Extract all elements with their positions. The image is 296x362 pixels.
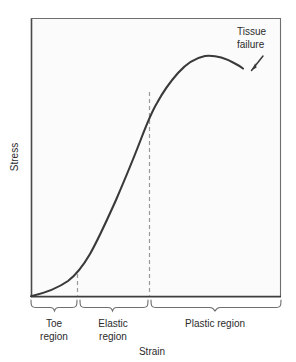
- brace-toe: [31, 300, 77, 311]
- region-label-toe-line1: Toe: [46, 318, 63, 329]
- region-braces: [31, 300, 281, 311]
- brace-elastic: [80, 300, 148, 311]
- brace-plastic: [151, 300, 281, 311]
- region-label-toe-line2: region: [40, 331, 68, 342]
- region-label-plastic: Plastic region: [185, 318, 245, 329]
- plot-background: [31, 18, 281, 297]
- annotation-tissue-failure-line1: Tissue: [237, 26, 267, 37]
- y-axis-title: Stress: [9, 143, 20, 171]
- x-axis-title: Strain: [139, 346, 165, 357]
- region-labels: Toe region Elastic region Plastic region: [40, 318, 245, 342]
- annotation-tissue-failure-line2: failure: [237, 39, 265, 50]
- stress-strain-chart: Tissue failure Stress Toe region Elastic…: [0, 0, 296, 362]
- region-label-elastic-line1: Elastic: [98, 318, 127, 329]
- region-label-elastic-line2: region: [99, 331, 127, 342]
- stress-strain-figure: Tissue failure Stress Toe region Elastic…: [0, 0, 296, 362]
